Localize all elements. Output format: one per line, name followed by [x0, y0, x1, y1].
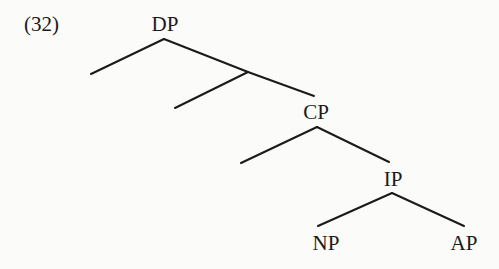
- edge-intermediate-cp: [248, 72, 314, 96]
- edge-ip-ap: [392, 193, 464, 226]
- tree-edges: [0, 0, 499, 269]
- node-ap: AP: [451, 233, 478, 254]
- edge-ip-np: [318, 193, 392, 226]
- edge-dp-left: [91, 39, 164, 74]
- edge-intermediate-left: [175, 72, 248, 108]
- node-dp: DP: [152, 14, 179, 35]
- node-np: NP: [313, 233, 340, 254]
- edge-cp-left: [241, 127, 317, 163]
- edge-cp-ip: [317, 127, 389, 162]
- node-cp: CP: [303, 102, 329, 123]
- syntax-tree-diagram: (32) DP CP IP NP AP: [0, 0, 499, 269]
- node-ip: IP: [384, 169, 403, 190]
- edge-dp-right: [164, 39, 248, 72]
